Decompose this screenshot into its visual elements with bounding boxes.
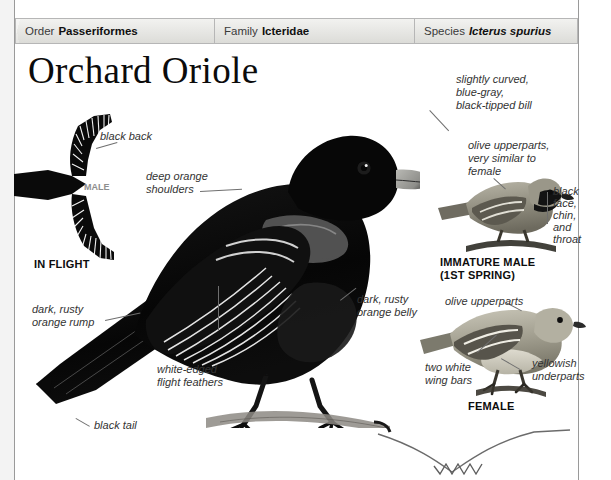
annotation-dark-rusty-orange-belly: dark, rusty orange belly bbox=[357, 293, 417, 319]
annotation-olive-upperparts: olive upperparts bbox=[445, 295, 523, 308]
leader-slightly-curved-bill bbox=[429, 110, 449, 131]
annotation-two-white-wing-bars: two white wing bars bbox=[425, 361, 472, 387]
taxonomy-cell-order: Order Passeriformes bbox=[16, 19, 215, 43]
leader-black-face-chin-throat bbox=[547, 192, 548, 224]
annotation-yellowish-underparts: yellowish underparts bbox=[532, 357, 585, 383]
annotation-black-tail: black tail bbox=[94, 419, 137, 432]
taxonomy-value-family: Icteridae bbox=[262, 25, 309, 37]
annotation-black-back: black back bbox=[100, 130, 152, 143]
right-margin-strip bbox=[579, 0, 611, 480]
branch-sprig-figure bbox=[374, 420, 574, 476]
annotation-dark-rusty-orange-rump: dark, rusty orange rump bbox=[32, 303, 94, 329]
annotation-deep-orange-shoulders: deep orange shoulders bbox=[146, 170, 208, 196]
taxonomy-value-order: Passeriformes bbox=[58, 25, 137, 37]
taxonomy-label-family: Family bbox=[224, 25, 258, 37]
field-guide-page: Order Passeriformes Family Icteridae Spe… bbox=[0, 0, 611, 480]
page-title: Orchard Oriole bbox=[28, 52, 259, 89]
taxonomy-cell-family: Family Icteridae bbox=[215, 19, 415, 43]
caption-in-flight: IN FLIGHT bbox=[34, 258, 90, 271]
annotation-white-edged-flight-feathers: white-edged flight feathers bbox=[157, 363, 223, 389]
annotation-black-face-chin-throat: black face, chin, and throat bbox=[553, 185, 581, 245]
caption-immature-male: IMMATURE MALE (1ST SPRING) bbox=[440, 256, 535, 282]
taxonomy-header-bar: Order Passeriformes Family Icteridae Spe… bbox=[15, 18, 578, 44]
caption-female: FEMALE bbox=[468, 400, 514, 413]
taxonomy-cell-species: Species Icterus spurius bbox=[415, 19, 577, 43]
taxonomy-value-species: Icterus spurius bbox=[469, 25, 551, 37]
caption-in-flight-male: MALE bbox=[84, 181, 110, 194]
taxonomy-label-order: Order bbox=[25, 25, 54, 37]
annotation-slightly-curved-bill: slightly curved, blue-gray, black-tipped… bbox=[456, 73, 532, 112]
caption-male: MALE bbox=[246, 366, 278, 379]
taxonomy-label-species: Species bbox=[424, 25, 465, 37]
annotation-olive-upperparts-similar: olive upperparts, very similar to female bbox=[468, 139, 549, 178]
left-margin-strip bbox=[0, 0, 14, 480]
leader-white-edged-flight-feathers bbox=[218, 286, 219, 330]
